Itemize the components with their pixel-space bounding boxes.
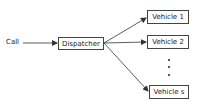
dispatcher-to-vehicle-2-arrow [104, 42, 146, 43]
vehicle-1-label: Vehicle 1 [152, 13, 184, 21]
ellipsis-dot [168, 66, 170, 68]
call-label: Call [6, 39, 19, 46]
vehicle-2-box: Vehicle 2 [147, 35, 189, 49]
vehicle-s-label: Vehicle s [154, 88, 185, 96]
vehicle-s-box: Vehicle s [149, 85, 189, 99]
dispatcher-to-vehicle-s-arrow [104, 43, 148, 91]
dispatcher-to-vehicle-1-arrow [104, 18, 146, 43]
ellipsis-dot [168, 74, 170, 76]
ellipsis-dot [168, 59, 170, 61]
vehicle-1-box: Vehicle 1 [147, 10, 189, 24]
dispatcher-box: Dispatcher [58, 37, 104, 50]
vehicle-2-label: Vehicle 2 [152, 38, 184, 46]
dispatcher-label: Dispatcher [62, 40, 100, 48]
